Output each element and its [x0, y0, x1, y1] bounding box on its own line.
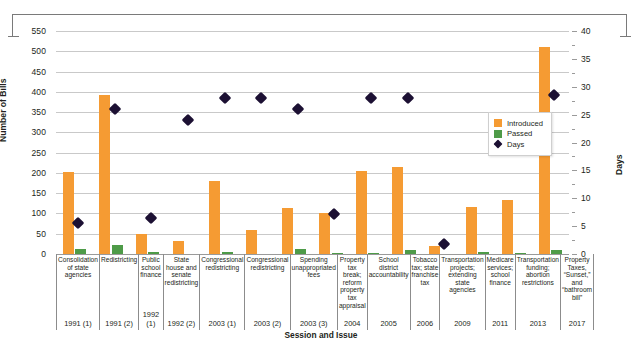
x-axis-category: Transportation funding; abortion restric…	[515, 254, 560, 330]
bar-group	[166, 31, 203, 254]
x-axis-issue-label: Consolidation of state agencies	[57, 254, 99, 279]
y-axis-right-tick-label: 40	[581, 26, 590, 36]
x-axis-session-label: 2013	[530, 319, 546, 330]
y-axis-right-tick-label: 15	[581, 165, 590, 175]
y-axis-left-tick-label: 450	[32, 67, 46, 77]
x-axis-categories: Consolidation of state agencies1991 (1)R…	[56, 254, 569, 330]
y-axis-right-tick-label: 20	[581, 138, 590, 148]
y-axis-right-tickmark	[572, 226, 577, 227]
y-axis-right-tick-label: 25	[581, 110, 590, 120]
bar-introduced	[282, 208, 293, 254]
bar-introduced	[466, 207, 477, 254]
x-axis-title: Session and Issue	[0, 330, 642, 340]
bar-introduced	[99, 95, 110, 254]
y-axis-left-tick-label: 350	[32, 107, 46, 117]
x-axis-category: Public school finance1992 (1)	[138, 254, 162, 330]
y-axis-right-minor-tickmark	[572, 45, 575, 46]
legend-swatch-days-icon	[493, 139, 502, 148]
legend-label-passed: Passed	[507, 129, 532, 138]
combo-chart: Number of Bills 050100150200250300350400…	[0, 0, 642, 350]
x-axis-session-label: 2017	[569, 319, 585, 330]
bar-introduced	[319, 213, 330, 254]
x-axis-issue-label: Property Taxes, “Sunset,” and “bathroom …	[561, 254, 593, 302]
bar-group	[93, 31, 130, 254]
x-axis-issue-label: Redistricting	[100, 254, 138, 264]
y-axis-right-tick-label: 30	[581, 82, 590, 92]
x-axis-issue-label: Tobacco tax; state franchise tax	[411, 254, 440, 286]
y-axis-right-minor-tickmark	[572, 212, 575, 213]
y-axis-left-tick-label: 400	[32, 87, 46, 97]
y-axis-right-minor-tickmark	[572, 240, 575, 241]
x-axis-session-label: 1992 (2)	[168, 319, 196, 330]
y-axis-right-minor-tickmark	[572, 184, 575, 185]
y-axis-left-tick-label: 300	[32, 127, 46, 137]
x-axis-issue-label: Spending unappropriated fees	[291, 254, 337, 279]
chart-legend: Introduced Passed Days	[488, 112, 552, 156]
bar-introduced	[136, 234, 147, 254]
y-axis-right-tick-label: 10	[581, 193, 590, 203]
x-axis-issue-label: Congressional redistricting	[200, 254, 244, 271]
bar-introduced	[429, 246, 440, 254]
bar-introduced	[173, 241, 184, 254]
x-axis-issue-label: State house and senate redistricting	[164, 254, 200, 286]
bar-introduced	[502, 200, 513, 254]
y-axis-right-ticks: 0510152025303540	[572, 31, 602, 254]
y-axis-left-tick-label: 150	[32, 188, 46, 198]
x-axis-category: Property tax break; reform property tax …	[337, 254, 367, 330]
x-axis-issue-label: Transportation funding; abortion restric…	[516, 254, 560, 286]
x-axis-session-label: 2005	[380, 319, 396, 330]
bar-introduced	[209, 181, 220, 254]
x-axis-category: Property Taxes, “Sunset,” and “bathroom …	[560, 254, 594, 330]
x-axis-category: Transportation projects; extending state…	[439, 254, 484, 330]
bar-group	[203, 31, 240, 254]
x-axis-category: Tobacco tax; state franchise tax2006	[410, 254, 440, 330]
legend-swatch-passed-icon	[494, 130, 502, 138]
x-axis-issue-label: Congressional redistricting	[245, 254, 289, 271]
y-axis-right-tickmark	[572, 115, 577, 116]
bar-introduced	[392, 167, 403, 254]
y-axis-left-tick-label: 100	[32, 208, 46, 218]
y-axis-right-tickmark	[572, 198, 577, 199]
y-axis-left-ticks: 050100150200250300350400450500550	[0, 31, 52, 254]
y-axis-left-tick-label: 550	[32, 26, 46, 36]
y-axis-right-tickmark	[572, 170, 577, 171]
y-axis-left-tick-label: 200	[32, 168, 46, 178]
x-axis-issue-label: Transportation projects; extending state…	[440, 254, 484, 294]
bar-group	[386, 31, 423, 254]
y-axis-right-tick-label: 35	[581, 54, 590, 64]
bar-introduced	[63, 172, 74, 254]
x-axis-session-label: 2004	[344, 319, 360, 330]
x-axis-issue-label: Medicare services; school finance	[486, 254, 515, 286]
y-axis-left-tick-label: 0	[41, 249, 46, 259]
y-axis-left-tick-label: 500	[32, 46, 46, 56]
x-axis-session-label: 2009	[454, 319, 470, 330]
y-axis-right-tickmark	[572, 31, 577, 32]
x-axis-category: Medicare services; school finance2011	[485, 254, 515, 330]
x-axis-issue-label: Property tax break; reform property tax …	[338, 254, 367, 309]
legend-item-passed: Passed	[494, 129, 546, 138]
y-axis-right-tickmark	[572, 59, 577, 60]
x-axis-category: Spending unappropriated fees2003 (3)	[290, 254, 337, 330]
y-axis-right-tickmark	[572, 143, 577, 144]
x-axis-issue-label: Public school finance	[139, 254, 162, 279]
legend-label-introduced: Introduced	[507, 119, 543, 128]
bar-introduced	[246, 230, 257, 254]
x-axis-session-label: 2003 (3)	[300, 319, 328, 330]
x-axis-category: School district accountability2005	[367, 254, 410, 330]
y-axis-left-tick-label: 250	[32, 148, 46, 158]
y-axis-right-tickmark	[572, 87, 577, 88]
x-axis-issue-label: School district accountability	[368, 254, 410, 279]
y-axis-right-tick-label: 5	[581, 221, 586, 231]
bar-introduced	[356, 171, 367, 254]
x-axis-category: State house and senate redistricting1992…	[163, 254, 200, 330]
bar-group	[422, 31, 459, 254]
x-axis-session-label: 2003 (1)	[209, 319, 237, 330]
y-axis-right-title: Days	[614, 154, 624, 175]
x-axis-session-label: 1992 (1)	[139, 310, 162, 330]
x-axis-category: Consolidation of state agencies1991 (1)	[56, 254, 99, 330]
bar-group	[239, 31, 276, 254]
x-axis-category: Congressional redistricting2003 (2)	[244, 254, 289, 330]
x-axis-session-label: 1991 (1)	[64, 319, 92, 330]
y-axis-right-minor-tickmark	[572, 101, 575, 102]
y-axis-right-minor-tickmark	[572, 129, 575, 130]
